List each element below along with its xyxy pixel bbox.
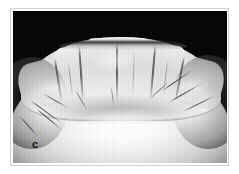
figure-panel: c <box>0 0 239 174</box>
specular-highlight-central <box>93 51 135 71</box>
figure-photograph: c <box>13 11 227 163</box>
panel-label: c <box>32 139 38 150</box>
interdental-groove-3 <box>116 41 118 101</box>
specular-highlight-palate <box>79 107 169 151</box>
